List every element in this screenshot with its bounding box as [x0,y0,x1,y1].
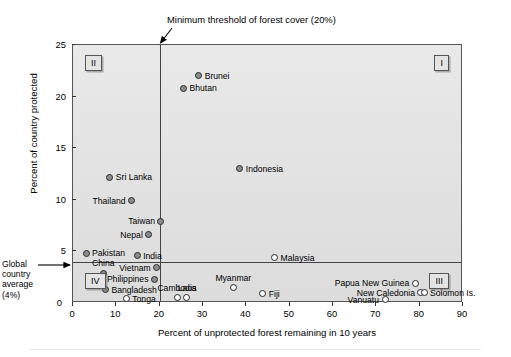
y-tick [72,250,76,251]
x-tick [332,302,333,306]
data-point [123,295,130,302]
x-tick-label: 70 [370,308,380,319]
y-tick [72,44,76,45]
x-tick [462,302,463,306]
y-tick [72,199,76,200]
point-label: Bhutan [190,84,217,93]
y-tick-label: 5 [44,245,66,256]
quadrant-label-iv: IV [85,273,106,289]
data-point [271,254,278,261]
x-tick-label: 10 [110,308,120,319]
global-average-annotation: Globalcountryaverage(4%) [2,259,33,300]
annotation-line: (4%) [2,290,33,300]
annotation-line: Global [2,259,33,269]
point-label: China [92,259,114,268]
y-tick [72,147,76,148]
y-tick-label: 25 [44,39,66,50]
x-tick [72,302,73,306]
data-point [157,218,164,225]
data-point [421,289,428,296]
x-tick [202,302,203,306]
point-label: Philippines [107,275,149,284]
point-label: Malaysia [281,253,315,262]
data-point [151,276,158,283]
x-tick-label: 40 [240,308,250,319]
data-point [174,294,181,301]
point-label: Vanuatu [348,295,379,304]
point-label: Fiji [269,289,280,298]
footer-divider [30,349,481,350]
threshold-annotation: Minimum threshold of forest cover (20%) [167,14,336,25]
x-tick [419,302,420,306]
x-tick [289,302,290,306]
data-point [195,72,202,79]
data-point [183,294,190,301]
point-label: Brunei [205,71,230,80]
y-tick-label: 10 [44,193,66,204]
x-tick [245,302,246,306]
quadrant-label-ii: II [85,55,102,71]
point-label: Vietnam [119,263,150,272]
data-point [128,197,135,204]
x-tick-label: 20 [153,308,163,319]
x-tick [159,302,160,306]
point-label: Indonesia [246,164,283,173]
data-point [180,85,187,92]
x-tick [115,302,116,306]
x-tick-label: 80 [413,308,423,319]
annotation-line: country [2,269,33,279]
data-point [236,165,243,172]
point-label: Pakistan [92,249,125,258]
point-label: Myanmar [215,274,251,283]
data-point [412,280,419,287]
data-point [106,174,113,181]
plot-area: BruneiBhutanIndonesiaSri LankaThailandTa… [72,44,462,302]
data-point [230,284,237,291]
data-point [382,296,389,303]
y-tick [72,96,76,97]
point-label: India [143,251,162,260]
y-tick-label: 15 [44,142,66,153]
point-label: Nepal [120,230,142,239]
point-label: Solomon Is. [430,288,475,297]
point-label: Sri Lanka [116,173,152,182]
point-label: Taiwan [128,217,155,226]
quadrant-label-i: I [434,55,449,71]
x-tick-label: 30 [197,308,207,319]
annotation-line: average [2,279,33,289]
figure: BruneiBhutanIndonesiaSri LankaThailandTa… [0,0,511,357]
x-tick-label: 50 [283,308,293,319]
y-axis-title: Percent of country protected [28,39,39,229]
x-axis-title: Percent of unprotected forest remaining … [72,327,462,338]
data-point [134,252,141,259]
x-tick-label: 60 [327,308,337,319]
data-point [259,290,266,297]
data-point [83,250,90,257]
x-tick-label: 0 [69,308,74,319]
point-label: Laos [178,284,197,293]
point-label: Tonga [132,294,155,303]
point-label: Thailand [93,196,126,205]
y-tick-label: 20 [44,90,66,101]
quadrant-label-iii: III [429,273,449,289]
x-tick-label: 90 [457,308,467,319]
data-point [145,231,152,238]
y-tick-label: 0 [44,297,62,308]
x-tick [375,302,376,306]
